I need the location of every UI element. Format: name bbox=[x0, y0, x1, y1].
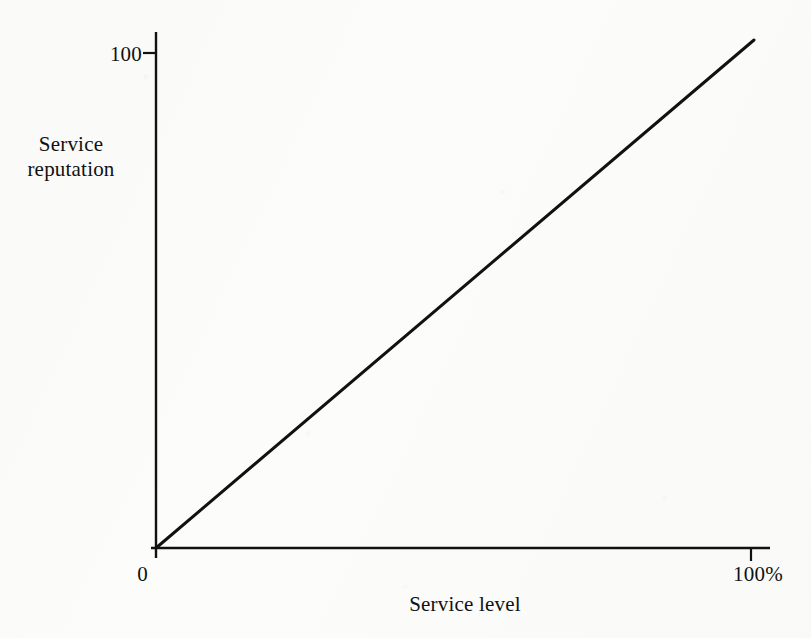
x-axis-title: Service level bbox=[355, 592, 575, 616]
y-axis-title: Service reputation bbox=[0, 132, 142, 182]
plot-area bbox=[0, 0, 811, 638]
x-tick-label-origin: 0 bbox=[118, 562, 148, 586]
chart-figure: Service reputation 100 0 100% Service le… bbox=[0, 0, 811, 638]
y-axis-title-line-1: Service bbox=[0, 132, 142, 157]
data-series-line bbox=[156, 40, 754, 548]
y-axis-title-line-2: reputation bbox=[0, 157, 142, 182]
x-tick-label-100-percent: 100% bbox=[712, 562, 804, 586]
y-tick-label-100: 100 bbox=[88, 42, 142, 66]
